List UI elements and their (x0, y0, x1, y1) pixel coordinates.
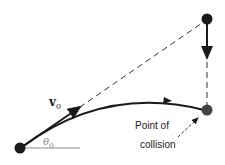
collision-label-line2: collision (140, 139, 176, 151)
collision-pointer (178, 118, 198, 137)
velocity-label: v0 (49, 96, 61, 113)
diagram-canvas (0, 0, 225, 165)
target-ball (202, 14, 213, 25)
collision-label-line1: Point of (135, 120, 169, 132)
collision-ball (202, 105, 213, 116)
velocity-symbol: v (49, 95, 56, 109)
angle-subscript: 0 (49, 141, 54, 150)
angle-label: θ0 (43, 136, 54, 152)
projectile-ball (15, 143, 26, 154)
velocity-subscript: 0 (56, 102, 61, 111)
